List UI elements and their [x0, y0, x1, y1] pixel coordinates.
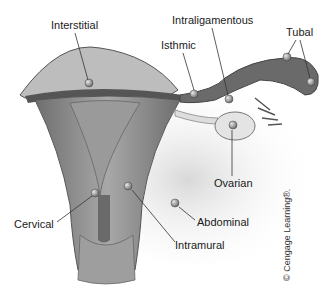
label-tubal: Tubal	[286, 27, 313, 38]
label-intraligamentous: Intraligamentous	[172, 15, 253, 26]
tubal-site-marker-2	[307, 78, 315, 86]
label-abdominal: Abdominal	[197, 217, 249, 228]
cervical-site-marker	[91, 189, 99, 197]
label-interstitial: Interstitial	[51, 20, 98, 31]
intramural-site-marker	[124, 182, 132, 190]
intraligamentous-site-marker	[225, 95, 233, 103]
cervical-canal	[98, 195, 110, 243]
label-cervical: Cervical	[14, 219, 54, 230]
abdominal-site-marker	[171, 199, 179, 207]
label-ovarian: Ovarian	[214, 178, 253, 189]
tubal-site-marker-1	[283, 53, 291, 61]
isthmic-site-marker	[190, 90, 198, 98]
ovarian-site-marker	[229, 121, 237, 129]
label-intramural: Intramural	[175, 240, 225, 251]
interstitial-site-marker	[85, 79, 93, 87]
label-isthmic: Isthmic	[161, 40, 196, 51]
copyright-credit: © Cengage Learning®.	[282, 189, 292, 281]
